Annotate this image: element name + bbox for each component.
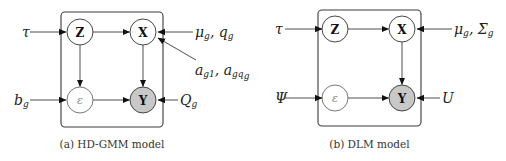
node-label: Z bbox=[331, 23, 340, 37]
node-eps: ε bbox=[322, 85, 348, 111]
node-Y: Y bbox=[389, 85, 415, 111]
node-label: Y bbox=[397, 92, 407, 106]
node-eps: ε bbox=[67, 87, 93, 113]
param-bg: bg bbox=[14, 92, 66, 109]
graphical-models-figure: ZXεYτbgμg, qgag1, agqgQg(a) HD-GMM model… bbox=[0, 0, 506, 161]
param-label: bg bbox=[14, 92, 29, 109]
panel-dlm-model: ZXεYτΨμg, ΣgU(b) DLM model bbox=[275, 10, 494, 150]
param-μg: μg, Σg bbox=[417, 21, 494, 38]
param-Qg: Qg bbox=[158, 92, 197, 109]
param-U: U bbox=[417, 90, 455, 106]
node-X: X bbox=[130, 19, 156, 45]
node-X: X bbox=[389, 16, 415, 42]
param-label: μg, Σg bbox=[454, 21, 494, 38]
node-Y: Y bbox=[130, 87, 156, 113]
param-label: Qg bbox=[180, 92, 197, 109]
param-label: τ bbox=[275, 21, 283, 37]
param-label: τ bbox=[22, 24, 30, 40]
node-label: X bbox=[138, 26, 148, 40]
param-label: ag1, agqg bbox=[195, 62, 250, 81]
figure-caption: (b) DLM model bbox=[329, 138, 410, 150]
node-label: Z bbox=[76, 26, 85, 40]
panel-hd-gmm-model: ZXεYτbgμg, qgag1, agqgQg(a) HD-GMM model bbox=[14, 12, 250, 150]
param-label: U bbox=[442, 90, 455, 106]
param-ag1: ag1, agqg bbox=[158, 38, 250, 81]
node-label: ε bbox=[77, 94, 83, 107]
param-Ψ: Ψ bbox=[275, 90, 322, 106]
param-τ: τ bbox=[22, 24, 66, 40]
node-label: Y bbox=[138, 94, 148, 108]
param-μg: μg, qg bbox=[158, 24, 234, 41]
figure-caption: (a) HD-GMM model bbox=[60, 138, 166, 150]
node-label: ε bbox=[332, 92, 338, 105]
node-Z: Z bbox=[322, 16, 348, 42]
param-τ: τ bbox=[275, 21, 322, 37]
param-label: Ψ bbox=[275, 90, 288, 106]
node-label: X bbox=[397, 23, 407, 37]
param-label: μg, qg bbox=[195, 24, 234, 41]
node-Z: Z bbox=[67, 19, 93, 45]
param-arrow bbox=[158, 38, 196, 60]
